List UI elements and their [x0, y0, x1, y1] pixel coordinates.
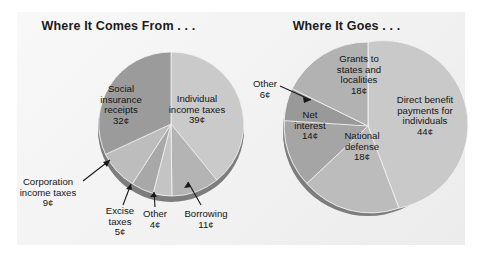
label-direct-benefit-value: 44¢ — [383, 127, 467, 138]
label-corporation-income-taxes-value: 9¢ — [9, 198, 87, 209]
label-other-line1: Other — [244, 79, 286, 90]
label-other: Other 6¢ — [244, 79, 286, 100]
label-social-insurance-receipts-value: 32¢ — [86, 116, 156, 127]
label-national-defense-value: 18¢ — [331, 152, 393, 163]
label-corporation-income-taxes: Corporation income taxes 9¢ — [9, 177, 87, 209]
label-borrowing: Borrowing 11¢ — [175, 209, 237, 230]
label-other: Other 4¢ — [133, 209, 177, 230]
label-corporation-income-taxes-line1: Corporation income taxes — [9, 177, 87, 198]
chart-where-it-goes: Where It Goes . . . — [241, 0, 482, 267]
label-borrowing-line1: Borrowing — [175, 209, 237, 220]
label-individual-income-taxes-line1: Individual income taxes — [156, 94, 238, 115]
label-other-value: 4¢ — [133, 220, 177, 231]
label-social-insurance-receipts: Social insurance receipts 32¢ — [86, 84, 156, 126]
label-grants-line1: Grants to states and localities — [321, 54, 397, 86]
label-direct-benefit-payments: Direct benefit payments for individuals … — [383, 95, 467, 137]
label-individual-income-taxes: Individual income taxes 39¢ — [156, 94, 238, 126]
label-net-interest-value: 14¢ — [282, 131, 338, 142]
label-grants-to-states-and-localities: Grants to states and localities 18¢ — [321, 54, 397, 96]
label-individual-income-taxes-value: 39¢ — [156, 115, 238, 126]
label-borrowing-value: 11¢ — [175, 220, 237, 231]
label-direct-benefit-line1: Direct benefit payments for individuals — [383, 95, 467, 127]
chart-where-it-comes-from: Where It Comes From . . . — [0, 0, 241, 267]
budget-pie-figure: Where It Comes From . . . — [0, 0, 482, 267]
label-net-interest-line1: Net interest — [282, 110, 338, 131]
label-other-line1: Other — [133, 209, 177, 220]
label-net-interest: Net interest 14¢ — [282, 110, 338, 142]
label-other-value: 6¢ — [244, 90, 286, 101]
label-social-insurance-receipts-line1: Social insurance receipts — [86, 84, 156, 116]
